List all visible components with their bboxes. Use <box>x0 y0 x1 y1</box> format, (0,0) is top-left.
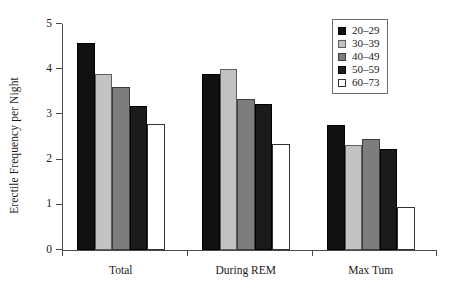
y-axis-tick-label: 0 <box>46 244 52 256</box>
x-axis-line <box>62 250 437 251</box>
bar <box>380 149 398 250</box>
x-axis-tick <box>312 250 313 256</box>
y-axis-tick-label: 1 <box>46 199 52 211</box>
y-axis-tick: 1 <box>56 204 62 205</box>
bar <box>130 106 148 250</box>
x-axis-tick <box>187 250 188 256</box>
bar <box>220 69 238 250</box>
x-axis-tick <box>62 250 63 256</box>
bar <box>77 43 95 250</box>
legend-swatch <box>338 66 346 74</box>
bar <box>255 104 273 250</box>
bar <box>202 74 220 250</box>
bar <box>272 144 290 250</box>
y-axis-tick-label: 5 <box>46 18 52 30</box>
legend-label: 60–73 <box>352 77 380 88</box>
legend-label: 30–39 <box>352 38 380 49</box>
bar <box>95 74 113 250</box>
y-axis-line <box>62 24 63 250</box>
bar <box>362 139 380 250</box>
bar <box>112 87 130 250</box>
y-axis-tick: 2 <box>56 159 62 160</box>
legend-swatch <box>338 79 346 87</box>
legend-label: 20–29 <box>352 25 380 36</box>
y-axis-tick: 5 <box>56 23 62 24</box>
bar-chart: Erectile Frequency per Night 012345 Tota… <box>0 0 456 291</box>
x-axis-category-label: Max Tum <box>348 264 393 276</box>
bar <box>147 124 165 250</box>
legend-item: 60–73 <box>338 76 380 89</box>
legend-swatch <box>338 40 346 48</box>
legend-label: 50–59 <box>352 64 380 75</box>
legend-label: 40–49 <box>352 51 380 62</box>
legend-swatch <box>338 53 346 61</box>
y-axis-tick-label: 3 <box>46 108 52 120</box>
bar <box>345 145 363 250</box>
bar <box>397 207 415 250</box>
bar <box>327 125 345 250</box>
x-axis-tick <box>436 250 437 256</box>
bar <box>237 99 255 250</box>
y-axis-tick-label: 4 <box>46 63 52 75</box>
x-axis-category-label: Total <box>109 264 132 276</box>
x-axis-category-label: During REM <box>216 264 276 276</box>
y-axis-title: Erectile Frequency per Night <box>2 0 26 291</box>
legend: 20–2930–3940–4950–5960–73 <box>332 19 388 94</box>
legend-item: 30–39 <box>338 37 380 50</box>
legend-item: 50–59 <box>338 63 380 76</box>
y-axis-tick: 4 <box>56 68 62 69</box>
legend-swatch <box>338 27 346 35</box>
y-axis-tick: 3 <box>56 113 62 114</box>
legend-item: 40–49 <box>338 50 380 63</box>
legend-item: 20–29 <box>338 24 380 37</box>
y-axis-tick-label: 2 <box>46 153 52 165</box>
